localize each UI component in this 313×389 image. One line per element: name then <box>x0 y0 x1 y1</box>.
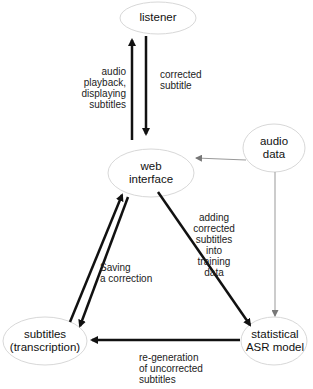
web-interface-label-line2: interface <box>111 173 191 186</box>
edge-label-web-to-listener: audio playback, displaying subtitles <box>72 66 126 110</box>
node-subtitles: subtitles (transcription) <box>3 328 87 354</box>
node-web-interface: web interface <box>111 160 191 186</box>
asr-label-line2: ASR model <box>238 341 312 354</box>
node-listener: listener <box>128 11 188 24</box>
asr-label-line1: statistical <box>238 328 312 341</box>
arrow-audio-to-web <box>196 158 246 160</box>
arrow-subtitles-to-web <box>70 195 122 322</box>
edge-label-asr-to-subtitles: re-generation of uncorrected subtitles <box>139 352 203 385</box>
subtitles-label-line2: (transcription) <box>3 341 87 354</box>
edge-label-web-to-asr: adding corrected subtitles into training… <box>184 212 244 278</box>
edge-label-web-to-subtitles: Saving a correction <box>100 262 152 284</box>
listener-label: listener <box>139 11 176 23</box>
edge-label-listener-to-web: corrected subtitle <box>160 69 202 91</box>
node-asr-model: statistical ASR model <box>238 328 312 354</box>
audio-data-label-line2: data <box>244 148 304 161</box>
subtitles-label-line1: subtitles <box>3 328 87 341</box>
web-interface-label-line1: web <box>111 160 191 173</box>
node-audio-data: audio data <box>244 135 304 161</box>
audio-data-label-line1: audio <box>244 135 304 148</box>
